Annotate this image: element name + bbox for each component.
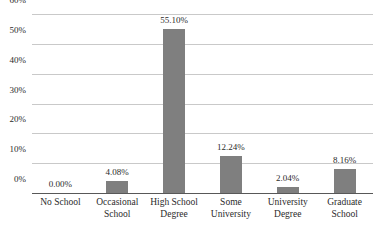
x-axis-category-label: No School xyxy=(32,196,89,208)
y-axis-ticks: 0%10%20%30%40%50%60% xyxy=(0,0,30,179)
bar-value-label: 4.08% xyxy=(106,168,129,177)
x-axis-category-label: GraduateSchool xyxy=(316,196,373,220)
x-axis-category-label: High SchoolDegree xyxy=(146,196,203,220)
bars-layer: 0.00%4.08%55.10%12.24%2.04%8.16% xyxy=(32,14,373,193)
y-axis-tick-label: 60% xyxy=(0,0,26,5)
plot-area: 0.00%4.08%55.10%12.24%2.04%8.16% xyxy=(32,14,373,193)
bar xyxy=(334,169,356,193)
x-axis-category-label: SomeUniversity xyxy=(203,196,260,220)
x-axis-category-label: OccasionalSchool xyxy=(89,196,146,220)
y-axis-tick-label: 40% xyxy=(0,56,26,65)
x-axis-labels: No SchoolOccasionalSchoolHigh SchoolDegr… xyxy=(32,196,373,236)
x-axis-category-label: UniversityDegree xyxy=(259,196,316,220)
bar-group: 8.16% xyxy=(316,14,373,193)
x-axis-category-line: High School xyxy=(146,196,203,208)
y-axis-tick-label: 10% xyxy=(0,145,26,154)
x-axis-category-line: Graduate xyxy=(316,196,373,208)
y-axis-tick-label: 20% xyxy=(0,115,26,124)
bar xyxy=(163,29,185,193)
x-axis-category-line: University xyxy=(259,196,316,208)
bar-value-label: 0.00% xyxy=(49,180,72,189)
x-axis-category-line: University xyxy=(203,208,260,220)
axis-baseline xyxy=(32,193,373,194)
x-axis-category-line: School xyxy=(89,208,146,220)
bar xyxy=(106,181,128,193)
y-axis-tick-label: 30% xyxy=(0,86,26,95)
x-axis-category-line: No School xyxy=(32,196,89,208)
y-axis-tick-label: 0% xyxy=(0,175,26,184)
bar-group: 12.24% xyxy=(203,14,260,193)
bar-group: 55.10% xyxy=(146,14,203,193)
x-axis-category-line: Some xyxy=(203,196,260,208)
bar-chart: 0%10%20%30%40%50%60% 0.00%4.08%55.10%12.… xyxy=(0,0,383,237)
x-axis-category-line: Degree xyxy=(259,208,316,220)
bar-group: 2.04% xyxy=(259,14,316,193)
bar-value-label: 8.16% xyxy=(333,156,356,165)
x-axis-category-line: Occasional xyxy=(89,196,146,208)
bar xyxy=(277,187,299,193)
bar-value-label: 55.10% xyxy=(160,16,188,25)
bar-value-label: 12.24% xyxy=(217,143,245,152)
bar-group: 4.08% xyxy=(89,14,146,193)
bar-group: 0.00% xyxy=(32,14,89,193)
x-axis-category-line: Degree xyxy=(146,208,203,220)
bar-value-label: 2.04% xyxy=(276,174,299,183)
bar xyxy=(220,156,242,193)
y-axis-tick-label: 50% xyxy=(0,26,26,35)
x-axis-category-line: School xyxy=(316,208,373,220)
